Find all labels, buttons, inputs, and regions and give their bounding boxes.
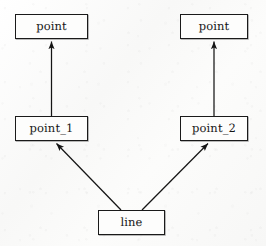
edge-line-to-point1 xyxy=(57,144,122,211)
node-point-top-left[interactable]: point xyxy=(15,14,88,39)
class-diagram-canvas: point point point_1 point_2 line xyxy=(0,0,266,246)
node-line[interactable]: line xyxy=(98,210,165,235)
node-label: line xyxy=(120,217,142,229)
node-label: point_1 xyxy=(29,123,73,135)
node-point-1[interactable]: point_1 xyxy=(15,116,88,141)
node-label: point xyxy=(199,21,230,33)
node-point-top-right[interactable]: point xyxy=(180,14,248,39)
edge-line-to-point2 xyxy=(142,144,208,211)
node-label: point_2 xyxy=(192,123,236,135)
node-point-2[interactable]: point_2 xyxy=(180,116,248,141)
node-label: point xyxy=(36,21,67,33)
